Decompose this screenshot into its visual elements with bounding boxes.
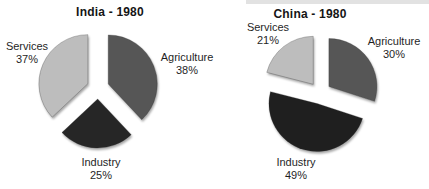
slice-label-pct: 38% <box>152 64 222 77</box>
figure-dual-pie-charts: India - 1980 China - 1980 Services 37% A… <box>0 0 429 189</box>
slice-label-text: Industry <box>66 156 136 169</box>
slice-label-china-agriculture: Agriculture 30% <box>359 35 429 61</box>
slice-label-india-services: Services 37% <box>0 40 62 66</box>
slice-label-pct: 49% <box>261 169 331 182</box>
slice-label-pct: 21% <box>233 34 303 47</box>
slice-label-text: Agriculture <box>359 35 429 48</box>
slice-label-india-agriculture: Agriculture 38% <box>152 51 222 77</box>
slice-label-text: Agriculture <box>152 51 222 64</box>
slice-label-text: Services <box>0 40 62 53</box>
slice-label-india-industry: Industry 25% <box>66 156 136 182</box>
pie-slice-india-agriculture <box>108 35 157 120</box>
slice-label-pct: 37% <box>0 53 62 66</box>
slice-label-text: Industry <box>261 156 331 169</box>
slice-label-china-services: Services 21% <box>233 21 303 47</box>
pie-slice-india-industry <box>62 99 131 148</box>
slice-label-pct: 30% <box>359 48 429 61</box>
slice-label-text: Services <box>233 21 303 34</box>
pie-slice-china-industry <box>269 92 363 152</box>
slice-label-pct: 25% <box>66 169 136 182</box>
pie-charts-svg <box>0 0 429 189</box>
slice-label-china-industry: Industry 49% <box>261 156 331 182</box>
